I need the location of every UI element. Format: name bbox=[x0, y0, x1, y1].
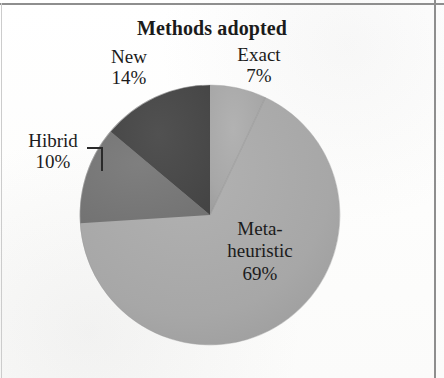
pie-label-hibrid-name: Hibrid bbox=[16, 131, 90, 152]
pie-label-hibrid: Hibrid 10% bbox=[16, 131, 90, 172]
pie-chart-figure: Methods adopted bbox=[0, 0, 444, 378]
pie-label-new-name: New bbox=[92, 47, 166, 68]
pie-label-new: New 14% bbox=[92, 47, 166, 88]
pie-label-new-value: 14% bbox=[92, 68, 166, 89]
pie-label-meta-heuristic-line2: heuristic bbox=[208, 240, 312, 262]
pie-label-exact-name: Exact bbox=[222, 45, 296, 66]
pie-label-hibrid-value: 10% bbox=[16, 152, 90, 173]
pie-label-meta-heuristic-value: 69% bbox=[208, 263, 312, 285]
pie-label-exact: Exact 7% bbox=[222, 45, 296, 86]
pie-label-meta-heuristic-line1: Meta- bbox=[208, 218, 312, 240]
pie-label-exact-value: 7% bbox=[222, 66, 296, 87]
pie-label-meta-heuristic: Meta- heuristic 69% bbox=[208, 218, 312, 285]
